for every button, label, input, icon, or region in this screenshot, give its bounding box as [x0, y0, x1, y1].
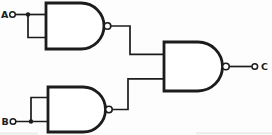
nand-gate-2-inversion-bubble [106, 106, 113, 113]
schematic-canvas: A B C [0, 0, 272, 135]
nand-gate-1-inversion-bubble [104, 23, 111, 30]
nand-gate-1-body [46, 3, 104, 49]
output-c-terminal-icon [252, 64, 258, 70]
input-b-label: B [2, 116, 9, 127]
wire-gate1-to-gate3 [111, 26, 164, 54]
wire-b-branch-to-top-input [31, 98, 48, 122]
circuit-diagram: A B C [0, 0, 272, 135]
input-b-terminal-icon [10, 119, 16, 125]
nand-gate-3-inversion-bubble [223, 63, 230, 70]
wire-gate2-to-gate3 [112, 79, 164, 110]
nand-gate-2-body [48, 87, 106, 132]
input-a-terminal-icon [10, 12, 16, 18]
input-a-label: A [1, 9, 9, 20]
wire-a-branch-to-bottom-input [28, 15, 46, 38]
output-c-label: C [261, 61, 268, 72]
nand-gate-3-body [164, 42, 222, 91]
